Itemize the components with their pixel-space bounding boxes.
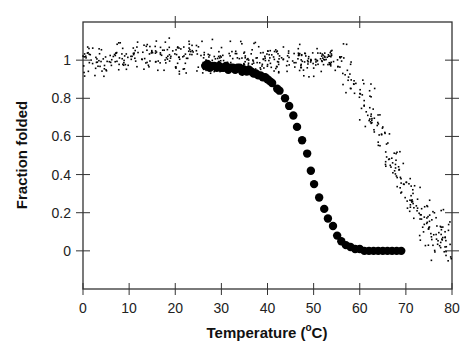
small-dot <box>84 75 86 77</box>
small-dot <box>313 76 315 78</box>
small-dot <box>203 52 205 54</box>
small-dot <box>360 93 362 95</box>
small-dot <box>374 88 376 90</box>
small-dot <box>448 230 450 232</box>
small-dot <box>197 53 199 55</box>
small-dot <box>313 67 315 69</box>
small-dot <box>317 63 319 65</box>
small-dot <box>419 187 421 189</box>
small-dot <box>210 47 212 49</box>
small-dot <box>333 61 335 63</box>
small-dot <box>302 61 304 63</box>
small-dot <box>286 71 288 73</box>
small-dot <box>399 187 401 189</box>
small-dot <box>385 151 387 153</box>
small-dot <box>103 75 105 77</box>
series-small-dots <box>82 37 452 261</box>
small-dot <box>413 207 415 209</box>
small-dot <box>425 245 427 247</box>
small-dot <box>288 50 290 52</box>
small-dot <box>299 44 301 46</box>
small-dot <box>88 53 90 55</box>
small-dot <box>324 59 326 61</box>
small-dot <box>378 123 380 125</box>
small-dot <box>155 61 157 63</box>
small-dot <box>350 64 352 66</box>
small-dot <box>421 218 423 220</box>
small-dot <box>261 65 263 67</box>
small-dot <box>305 55 307 57</box>
small-dot <box>256 62 258 64</box>
y-tick-label: 0.4 <box>52 167 72 183</box>
small-dot <box>370 115 372 117</box>
y-tick-label: 0 <box>63 243 71 259</box>
small-dot <box>105 69 107 71</box>
small-dot <box>286 65 288 67</box>
small-dot <box>324 52 326 54</box>
small-dot <box>377 122 379 124</box>
small-dot <box>255 57 257 59</box>
small-dot <box>162 49 164 51</box>
small-dot <box>149 46 151 48</box>
small-dot <box>386 156 388 158</box>
small-dot <box>267 64 269 66</box>
small-dot <box>320 71 322 73</box>
small-dot <box>331 55 333 57</box>
small-dot <box>179 71 181 73</box>
small-dot <box>215 58 217 60</box>
small-dot <box>163 49 165 51</box>
small-dot <box>363 100 365 102</box>
small-dot <box>300 64 302 66</box>
small-dot <box>263 59 265 61</box>
small-dot <box>410 195 412 197</box>
small-dot <box>160 54 162 56</box>
small-dot <box>412 203 414 205</box>
small-dot <box>274 51 276 53</box>
small-dot <box>430 233 432 235</box>
small-dot <box>418 212 420 214</box>
large-dot <box>329 222 337 230</box>
small-dot <box>392 172 394 174</box>
small-dot <box>300 59 302 61</box>
small-dot <box>371 119 373 121</box>
large-dot <box>289 111 297 119</box>
small-dot <box>89 62 91 64</box>
small-dot <box>144 58 146 60</box>
small-dot <box>134 50 136 52</box>
x-tick-label: 20 <box>167 300 183 316</box>
small-dot <box>354 93 356 95</box>
large-dot <box>397 247 405 255</box>
small-dot <box>260 52 262 54</box>
small-dot <box>218 56 220 58</box>
x-tick-label: 70 <box>398 300 414 316</box>
small-dot <box>297 58 299 60</box>
x-axis-title-pre: Temperature ( <box>207 324 306 341</box>
small-dot <box>288 64 290 66</box>
small-dot <box>428 228 430 230</box>
large-dot <box>293 123 301 131</box>
small-dot <box>389 158 391 160</box>
small-dot <box>405 181 407 183</box>
small-dot <box>410 185 412 187</box>
small-dot <box>95 68 97 70</box>
small-dot <box>273 56 275 58</box>
small-dot <box>196 50 198 52</box>
small-dot <box>396 175 398 177</box>
small-dot <box>337 59 339 61</box>
small-dot <box>396 177 398 179</box>
small-dot <box>396 186 398 188</box>
small-dot <box>387 142 389 144</box>
small-dot <box>344 74 346 76</box>
small-dot <box>175 66 177 68</box>
small-dot <box>111 59 113 61</box>
small-dot <box>421 208 423 210</box>
small-dot <box>208 56 210 58</box>
large-dot <box>298 136 306 144</box>
small-dot <box>349 73 351 75</box>
small-dot <box>258 46 260 48</box>
small-dot <box>308 58 310 60</box>
small-dot <box>445 251 447 253</box>
small-dot <box>450 256 452 258</box>
small-dot <box>244 55 246 57</box>
small-dot <box>203 57 205 59</box>
